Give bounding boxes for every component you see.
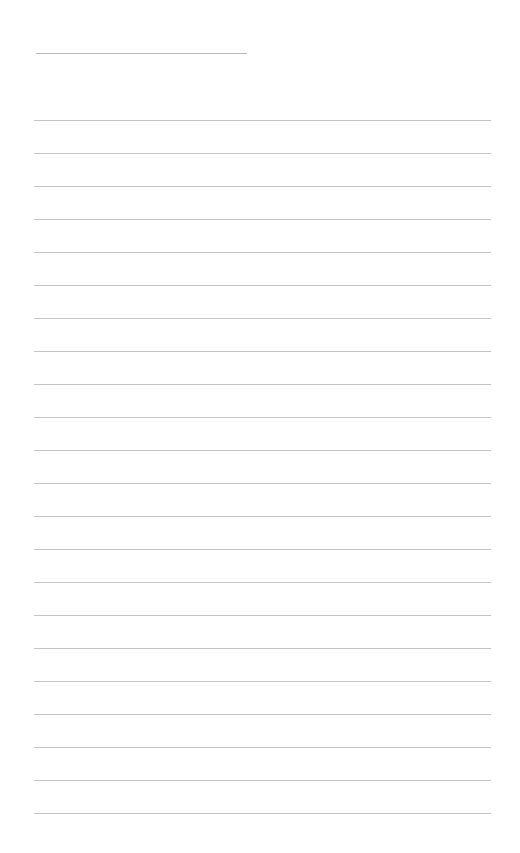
title-line	[36, 53, 247, 54]
ruled-line	[34, 318, 491, 319]
ruled-line	[34, 747, 491, 748]
ruled-line	[34, 186, 491, 187]
ruled-line	[34, 285, 491, 286]
ruled-line	[34, 384, 491, 385]
ruled-line	[34, 417, 491, 418]
ruled-line	[34, 450, 491, 451]
ruled-line	[34, 483, 491, 484]
ruled-line	[34, 648, 491, 649]
ruled-line	[34, 219, 491, 220]
ruled-line	[34, 549, 491, 550]
ruled-line	[34, 615, 491, 616]
ruled-page	[0, 0, 520, 853]
ruled-line	[34, 153, 491, 154]
ruled-line	[34, 681, 491, 682]
ruled-line	[34, 582, 491, 583]
ruled-line	[34, 351, 491, 352]
ruled-line	[34, 714, 491, 715]
ruled-line	[34, 252, 491, 253]
ruled-line	[34, 120, 491, 121]
ruled-line	[34, 516, 491, 517]
ruled-line	[34, 780, 491, 781]
ruled-line	[34, 813, 491, 814]
